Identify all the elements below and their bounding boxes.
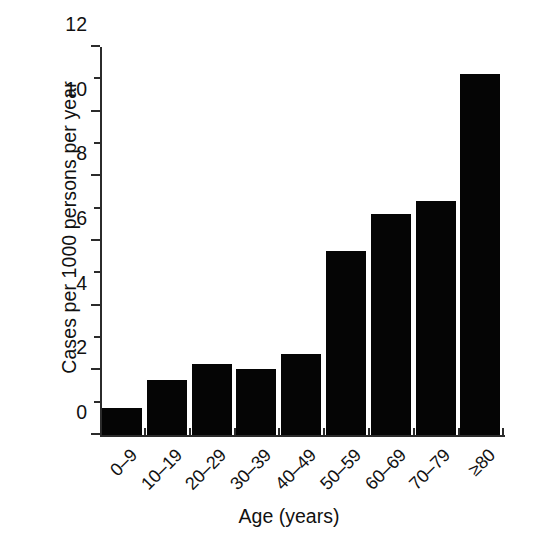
bar-chart-figure: Cases per 1000 persons per year 02468101… <box>0 0 534 544</box>
y-tick-major <box>91 45 100 47</box>
bar <box>236 369 276 435</box>
x-tick-label: 50–59 <box>316 445 366 495</box>
y-tick-label: 4 <box>76 271 87 294</box>
x-tick <box>368 428 370 437</box>
x-axis-line <box>100 435 505 437</box>
y-tick-minor <box>94 207 100 209</box>
y-tick-label: 12 <box>65 13 87 36</box>
y-tick-major <box>91 304 100 306</box>
x-tick-label: 60–69 <box>361 445 411 495</box>
bar <box>102 408 142 435</box>
y-tick-major <box>91 174 100 176</box>
y-tick-minor <box>94 401 100 403</box>
y-tick-minor <box>94 142 100 144</box>
y-tick-label: 0 <box>76 401 87 424</box>
y-tick-minor <box>94 336 100 338</box>
y-tick-major <box>91 368 100 370</box>
bar <box>326 251 366 435</box>
y-axis-line <box>100 47 102 435</box>
y-tick-label: 8 <box>76 142 87 165</box>
x-tick-label: ≥80 <box>464 445 500 481</box>
y-tick-major <box>91 239 100 241</box>
x-tick <box>144 428 146 437</box>
y-tick-label: 10 <box>65 77 87 100</box>
x-tick-label: 30–39 <box>226 445 276 495</box>
x-tick-origin <box>100 428 102 437</box>
x-tick-label: 0–9 <box>106 445 142 481</box>
x-tick <box>278 428 280 437</box>
x-tick-label: 20–29 <box>182 445 232 495</box>
y-tick-label: 2 <box>76 336 87 359</box>
x-tick <box>458 428 460 437</box>
y-tick-minor <box>94 271 100 273</box>
x-tick-label: 40–49 <box>271 445 321 495</box>
x-tick <box>502 428 504 437</box>
x-tick <box>323 428 325 437</box>
y-tick-major <box>91 433 100 435</box>
x-tick <box>189 428 191 437</box>
bar <box>416 201 456 435</box>
x-axis-title: Age (years) <box>0 505 534 528</box>
x-tick <box>234 428 236 437</box>
y-tick-label: 6 <box>76 207 87 230</box>
y-tick-major <box>91 110 100 112</box>
x-tick-label: 70–79 <box>406 445 456 495</box>
bar <box>147 380 187 435</box>
bar <box>460 74 500 435</box>
plot-area: 024681012 0–910–1920–2930–3940–4950–5960… <box>100 47 505 435</box>
bar <box>281 354 321 435</box>
bar <box>192 364 232 435</box>
y-tick-minor <box>94 77 100 79</box>
bar <box>371 214 411 435</box>
x-tick <box>413 428 415 437</box>
x-tick-label: 10–19 <box>137 445 187 495</box>
